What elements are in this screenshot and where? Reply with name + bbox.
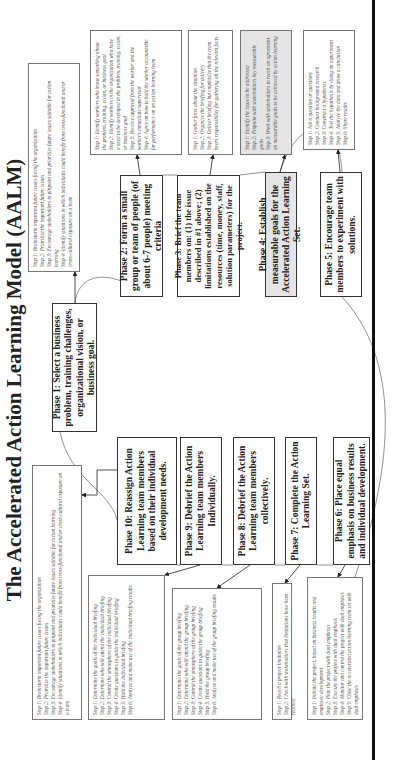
phase-1-steps: Step 1: Brainstorm important future issu… xyxy=(28,63,80,272)
step: Step 5: Analyze the data and draw a conc… xyxy=(335,35,342,145)
step: Step 1: Identify the issue to be address… xyxy=(244,35,251,150)
step: Step 3: Work with stakeholders to reach … xyxy=(265,35,279,150)
phase-10-label: Phase 10: Reassign Action Learning team … xyxy=(124,441,170,561)
step: Step 3: Construct a hypothesis xyxy=(321,35,328,145)
phase-4-label: Phase 4: Establish measurable goals for … xyxy=(258,176,304,293)
phase-5-steps: Step 1: Ask a question or questions Step… xyxy=(303,30,355,150)
step: Step 4: Test the hypothesis by doing an … xyxy=(328,35,335,145)
step: Step 6: Share results xyxy=(342,35,349,145)
step: Step 2: Determine who will attend the gr… xyxy=(183,593,190,715)
phase-1-box[interactable]: Phase 1: Select a business problem, trai… xyxy=(52,303,97,432)
step: Step 1: Determine the goals of the indiv… xyxy=(92,580,99,715)
phase-10-box[interactable]: Phase 10: Reassign Action Learning team … xyxy=(117,437,177,565)
step: Step 4: Create questions to guide the in… xyxy=(113,580,120,715)
step: Step 1: Gather facts about the situation xyxy=(192,35,199,150)
phase-7-steps: Step 1: Reach a project limitation Step … xyxy=(272,583,292,720)
phase-2-steps: Step 1: Identify workers who know someth… xyxy=(90,30,182,155)
step: Step 3: Encourage stakeholders to pinpoi… xyxy=(46,68,60,267)
step: Step 3: Execute the project with dual em… xyxy=(332,582,339,715)
phase-6-box[interactable]: Phase 6: Place equal emphasis on busines… xyxy=(333,437,370,565)
step: Step 1: Identify workers who know someth… xyxy=(94,35,108,150)
phase-4-box[interactable]: Phase 4: Establish measurable goals for … xyxy=(265,172,297,297)
phase-7-box[interactable]: Phase 7: Complete the Action Learning Se… xyxy=(285,437,317,565)
phase-2-label: Phase 2: Form a small group or team of p… xyxy=(119,179,165,293)
step: Step 5: Close the accelerated action lea… xyxy=(346,582,360,715)
phase-9-steps: Step 1: Determine the goals of the indiv… xyxy=(88,575,165,720)
step: Step 3: Receive approval from the worker… xyxy=(129,35,143,150)
step: Step 4: Identify situations in which ind… xyxy=(57,470,71,715)
phase-1-label: Phase 1: Select a business problem, trai… xyxy=(52,307,98,428)
phase-6-steps: Step 1: Initiate the project, based on b… xyxy=(307,577,363,720)
step: Step 2: Prioritize the important future … xyxy=(43,470,50,715)
step: Step 4: Create questions to guide the gr… xyxy=(197,593,204,715)
diagram-canvas: The Accelerated Action Learning Model (A… xyxy=(0,0,400,760)
step: Step 1: Brainstorm important future issu… xyxy=(36,470,43,715)
step: Step 6: Analyze and make use of the indi… xyxy=(127,580,134,715)
step: Step 5: Hold the individual briefing xyxy=(120,580,127,715)
step: Step 2: Prioritize the important future … xyxy=(39,68,46,267)
phase-10-steps: Step 1: Brainstorm important future issu… xyxy=(32,465,82,720)
phase-3-steps: Step 1: Gather facts about the situation… xyxy=(188,30,233,155)
step: Step 1: Reach a project limitation xyxy=(276,588,283,715)
step: Step 6: Analyze and make use of the grou… xyxy=(211,593,218,715)
step: Step 2: Plan the project with dual empha… xyxy=(325,582,332,715)
step: Step 4: Identify situations in which ind… xyxy=(60,68,74,267)
step: Step 2: Organize the briefing for delive… xyxy=(199,35,206,150)
step: Step 2: Pinpoint with stakeholders key m… xyxy=(251,35,265,150)
step: Step 1: Brainstorm important future issu… xyxy=(32,68,39,267)
phase-8-box[interactable]: Phase 8: Debrief the Action Learning tea… xyxy=(233,437,275,565)
phase-9-label: Phase 9: Debrief the Action Learning tea… xyxy=(184,441,218,561)
step: Step 3: Encourage stakeholders to pinpoi… xyxy=(50,470,57,715)
phase-4-steps: Step 1: Identify the issue to be address… xyxy=(240,30,292,155)
step: Step 3: Deliver briefing but emphasize t… xyxy=(206,35,220,150)
phase-3-box[interactable]: Phase 3: Brief the team members on: (1) … xyxy=(177,175,240,297)
phase-5-box[interactable]: Phase 5: Encourage team members to exper… xyxy=(320,172,362,297)
step: Step 4: Agree on how to hold the worker … xyxy=(143,35,157,150)
step: Step 2: Identify workers in the organiza… xyxy=(108,35,129,150)
step: Step 5: Hold the group briefing xyxy=(204,593,211,715)
page-edge-border xyxy=(372,0,375,760)
phase-6-label: Phase 6: Place equal emphasis on busines… xyxy=(334,441,368,561)
phase-9-box[interactable]: Phase 9: Debrief the Action Learning tea… xyxy=(180,437,222,565)
step: Step 3: Control the atmosphere of the gr… xyxy=(190,593,197,715)
step: Step 2: Check with stakeholders that lim… xyxy=(283,588,297,715)
step: Step 1: Initiate the project, based on b… xyxy=(311,582,325,715)
phase-5-label: Phase 5: Encourage team members to exper… xyxy=(324,176,358,293)
phase-7-label: Phase 7: Complete the Action Learning Se… xyxy=(290,441,313,561)
phase-8-label: Phase 8: Debrief the Action Learning tea… xyxy=(237,441,271,561)
step: Step 2: Conduct background research xyxy=(314,35,321,145)
step: Step 3: Control the atmosphere of the in… xyxy=(106,580,113,715)
phase-8-steps: Step 1: Determine the goals of the group… xyxy=(172,588,262,720)
step: Step 1: Determine the goals of the group… xyxy=(176,593,183,715)
step: Step 2: Determine who will attend the in… xyxy=(99,580,106,715)
phase-3-label: Phase 3: Brief the team members on: (1) … xyxy=(173,179,244,293)
phase-2-box[interactable]: Phase 2: Form a small group or team of p… xyxy=(120,175,163,297)
step: Step 4: Monitor and control the project … xyxy=(339,582,346,715)
step: Step 1: Ask a question or questions xyxy=(307,35,314,145)
